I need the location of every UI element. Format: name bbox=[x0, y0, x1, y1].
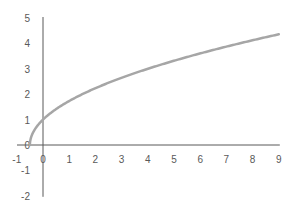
x-tick-label: 9 bbox=[276, 154, 282, 165]
y-tick-label: -2 bbox=[21, 191, 30, 202]
y-tick-label: 5 bbox=[24, 13, 30, 24]
x-tick-label: 0 bbox=[40, 154, 46, 165]
y-tick-label: -1 bbox=[21, 165, 30, 176]
x-tick-label: 6 bbox=[197, 154, 203, 165]
x-tick-label: 8 bbox=[250, 154, 256, 165]
y-tick-label: 3 bbox=[24, 64, 30, 75]
x-tick-label: 5 bbox=[171, 154, 177, 165]
y-tick-label: 4 bbox=[24, 38, 30, 49]
y-tick-labels: 543210-1-2 bbox=[21, 13, 30, 202]
y-tick-label: 1 bbox=[24, 115, 30, 126]
data-series-curve bbox=[30, 34, 279, 145]
x-tick-label: 7 bbox=[224, 154, 230, 165]
chart: -10123456789 543210-1-2 bbox=[0, 0, 293, 214]
x-tick-label: 2 bbox=[93, 154, 99, 165]
x-tick-label: 4 bbox=[145, 154, 151, 165]
y-tick-label: 2 bbox=[24, 89, 30, 100]
x-tick-label: -1 bbox=[12, 154, 21, 165]
x-tick-label: 1 bbox=[66, 154, 72, 165]
x-tick-label: 3 bbox=[119, 154, 125, 165]
x-tick-labels: -10123456789 bbox=[12, 154, 282, 165]
